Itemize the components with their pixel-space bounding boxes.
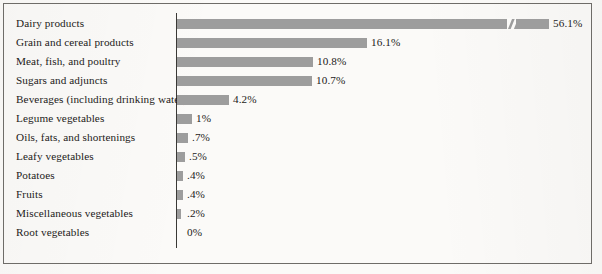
value-label: 4.2% [233, 90, 257, 109]
bar-row: Meat, fish, and poultry10.8% [0, 52, 602, 71]
category-label: Potatoes [16, 166, 55, 185]
bar-row: Sugars and adjuncts10.7% [0, 71, 602, 90]
value-label: 10.7% [316, 71, 345, 90]
category-label: Root vegetables [16, 223, 89, 242]
bar-row: Grain and cereal products16.1% [0, 33, 602, 52]
bar [177, 190, 183, 200]
bar [177, 76, 312, 86]
axis-break-icon [507, 18, 516, 30]
value-label: 56.1% [553, 14, 582, 33]
bar-row: Miscellaneous vegetables.2% [0, 204, 602, 223]
chart-page: Dairy products56.1%Grain and cereal prod… [0, 0, 602, 274]
value-label: 10.8% [317, 52, 346, 71]
category-label: Beverages (including drinking water) [16, 90, 187, 109]
bar [177, 209, 181, 219]
category-label: Oils, fats, and shortenings [16, 128, 135, 147]
category-label: Leafy vegetables [16, 147, 94, 166]
bar-row: Root vegetables0% [0, 223, 602, 242]
bar-row: Dairy products56.1% [0, 14, 602, 33]
bar [177, 38, 367, 48]
bar-row: Legume vegetables1% [0, 109, 602, 128]
bar [177, 95, 229, 105]
bar-row: Oils, fats, and shortenings.7% [0, 128, 602, 147]
bar-row: Leafy vegetables.5% [0, 147, 602, 166]
bar [177, 171, 183, 181]
category-label: Fruits [16, 185, 43, 204]
bar-row: Potatoes.4% [0, 166, 602, 185]
value-label: .4% [187, 166, 205, 185]
bar-row: Beverages (including drinking water)4.2% [0, 90, 602, 109]
category-label: Legume vegetables [16, 109, 104, 128]
category-label: Dairy products [16, 14, 84, 33]
bar [177, 133, 188, 143]
value-label: .7% [192, 128, 210, 147]
bar-row: Fruits.4% [0, 185, 602, 204]
value-label: .5% [189, 147, 207, 166]
value-label: 0% [187, 223, 202, 242]
category-label: Meat, fish, and poultry [16, 52, 121, 71]
category-label: Grain and cereal products [16, 33, 134, 52]
category-label: Miscellaneous vegetables [16, 204, 133, 223]
bar [177, 19, 549, 29]
value-label: .2% [187, 204, 205, 223]
value-label: .4% [187, 185, 205, 204]
bar [177, 57, 313, 67]
value-label: 16.1% [371, 33, 400, 52]
bar-chart-plot: Dairy products56.1%Grain and cereal prod… [0, 0, 602, 274]
bar [177, 152, 185, 162]
value-label: 1% [196, 109, 211, 128]
category-label: Sugars and adjuncts [16, 71, 107, 90]
bar [177, 114, 192, 124]
